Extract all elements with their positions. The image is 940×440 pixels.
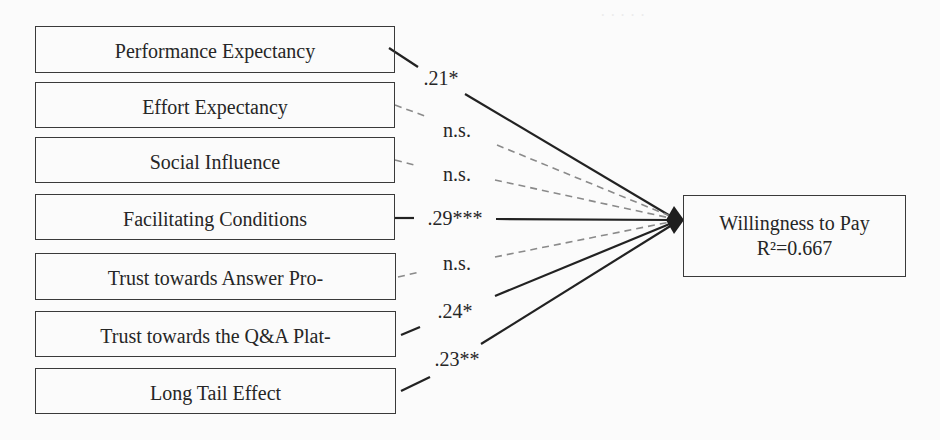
- path-diagram: · · · · ·: [0, 0, 940, 440]
- coef-social-influence: n.s.: [443, 163, 471, 186]
- predictor-label: Effort Expectancy: [142, 96, 288, 119]
- path-line-social-influence: [395, 160, 418, 166]
- path-line-long-tail-effect: [401, 377, 430, 391]
- predictor-box-social-influence: Social Influence: [35, 137, 395, 183]
- path-line-effort-expectancy: [395, 105, 425, 116]
- path-line-performance-expectancy: [465, 94, 672, 217]
- predictor-box-performance-expectancy: Performance Expectancy: [35, 26, 395, 73]
- coef-facilitating-conditions: .29***: [428, 207, 483, 230]
- predictor-box-long-tail-effect: Long Tail Effect: [35, 368, 396, 414]
- predictor-label: Facilitating Conditions: [123, 208, 307, 231]
- predictor-box-facilitating-conditions: Facilitating Conditions: [35, 194, 395, 240]
- path-line-effort-expectancy: [497, 145, 670, 216]
- predictor-label: Trust towards Answer Pro-: [108, 267, 323, 290]
- path-line-trust-answer-provider: [495, 222, 670, 257]
- predictor-box-trust-platform: Trust towards the Q&A Plat-: [35, 311, 396, 357]
- path-line-long-tail-effect: [481, 225, 672, 344]
- coef-long-tail-effect: .23**: [435, 348, 480, 371]
- outcome-label: Willingness to Pay: [719, 211, 869, 236]
- coef-effort-expectancy: n.s.: [443, 119, 471, 142]
- arrowhead-icon: [666, 206, 684, 234]
- outcome-box-willingness-to-pay: Willingness to Pay R²=0.667: [683, 195, 906, 277]
- coef-trust-platform: .24*: [438, 300, 473, 323]
- predictor-label: Performance Expectancy: [115, 40, 315, 63]
- predictor-label: Trust towards the Q&A Plat-: [100, 325, 330, 348]
- path-line-trust-platform: [401, 327, 420, 335]
- path-line-trust-answer-provider: [398, 272, 420, 277]
- predictor-box-effort-expectancy: Effort Expectancy: [35, 82, 395, 128]
- coef-performance-expectancy: .21*: [424, 67, 459, 90]
- predictor-label: Long Tail Effect: [150, 382, 281, 405]
- predictor-label: Social Influence: [150, 151, 281, 174]
- path-line-trust-platform: [495, 223, 672, 296]
- r-squared-value: R²=0.667: [757, 236, 833, 261]
- path-line-facilitating-conditions: [496, 219, 672, 220]
- coef-trust-answer-provider: n.s.: [443, 252, 471, 275]
- predictor-box-trust-answer-provider: Trust towards Answer Pro-: [35, 253, 396, 300]
